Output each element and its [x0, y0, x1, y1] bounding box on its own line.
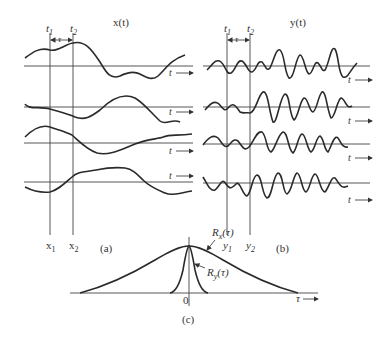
- panel-c-caption: (c): [182, 313, 195, 326]
- panel-a: x(t) t1 t2 τ t t t t x1 x2: [24, 16, 193, 255]
- panel-a-t-arrows: t t t t: [169, 67, 193, 181]
- panel-a-x2-label: x2: [69, 239, 79, 254]
- panel-b-y1-label: y1: [222, 239, 232, 254]
- panel-c-tau-label: τ: [296, 292, 301, 304]
- svg-text:t: t: [169, 170, 172, 181]
- svg-text:t: t: [348, 194, 351, 205]
- panel-b: y(t) t1 t2 τ t t t t y1 y2 (b): [203, 16, 372, 255]
- figure-canvas: x(t) t1 t2 τ t t t t x1 x2: [0, 0, 389, 341]
- panel-b-y2-label: y2: [245, 239, 255, 254]
- panel-a-caption: (a): [100, 242, 113, 255]
- svg-text:t: t: [169, 145, 172, 156]
- panel-a-realization-2: [25, 96, 180, 123]
- panel-a-x1-label: x1: [46, 239, 56, 254]
- svg-text:t: t: [169, 67, 172, 78]
- svg-text:t: t: [348, 115, 351, 126]
- panel-b-realization-3: [203, 132, 348, 153]
- panel-c-rx-leader: [207, 240, 215, 250]
- panel-b-title: y(t): [290, 16, 306, 29]
- panel-b-caption: (b): [276, 242, 289, 255]
- panel-b-t-arrows: t t t t: [348, 74, 372, 205]
- panel-a-realization-1: [25, 42, 185, 78]
- panel-b-t1-label: t1: [224, 22, 231, 37]
- panel-b-tau-label: τ: [235, 34, 239, 44]
- panel-a-title: x(t): [113, 16, 129, 29]
- panel-a-t2-label: t2: [70, 22, 77, 37]
- panel-b-t2-label: t2: [247, 22, 254, 37]
- panel-b-realization-1: [207, 48, 357, 78]
- panel-c: Rx(τ) Ry(τ) 0 τ (c): [70, 226, 318, 326]
- panel-a-t1-label: t1: [46, 22, 53, 37]
- panel-a-tau-label: τ: [58, 34, 62, 44]
- svg-text:t: t: [348, 152, 351, 163]
- panel-c-origin-label: 0: [183, 294, 189, 306]
- panel-c-ry-leader: [195, 264, 205, 268]
- panel-c-ry-label: Ry(τ): [206, 266, 229, 281]
- panel-b-realization-4: [203, 173, 348, 198]
- svg-text:t: t: [169, 106, 172, 117]
